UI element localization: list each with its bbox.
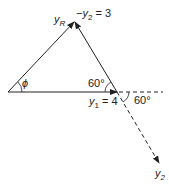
arc-60-right [123, 92, 129, 102]
label-angle-60-top: 60° [88, 78, 105, 89]
vector-yR [8, 22, 74, 92]
diagram-graphics [0, 0, 169, 185]
label-minus-y2: −y2 = 3 [76, 8, 111, 22]
label-yR: yR [54, 14, 65, 28]
label-phi: ϕ [22, 78, 28, 89]
label-y2: y2 [155, 168, 165, 182]
label-y1: y1 = 4 [89, 96, 118, 110]
arc-60-top [105, 82, 111, 92]
label-angle-60-right: 60° [134, 95, 151, 106]
vector-diagram: yR −y2 = 3 ϕ 60° y1 = 4 60° y2 [0, 0, 169, 185]
